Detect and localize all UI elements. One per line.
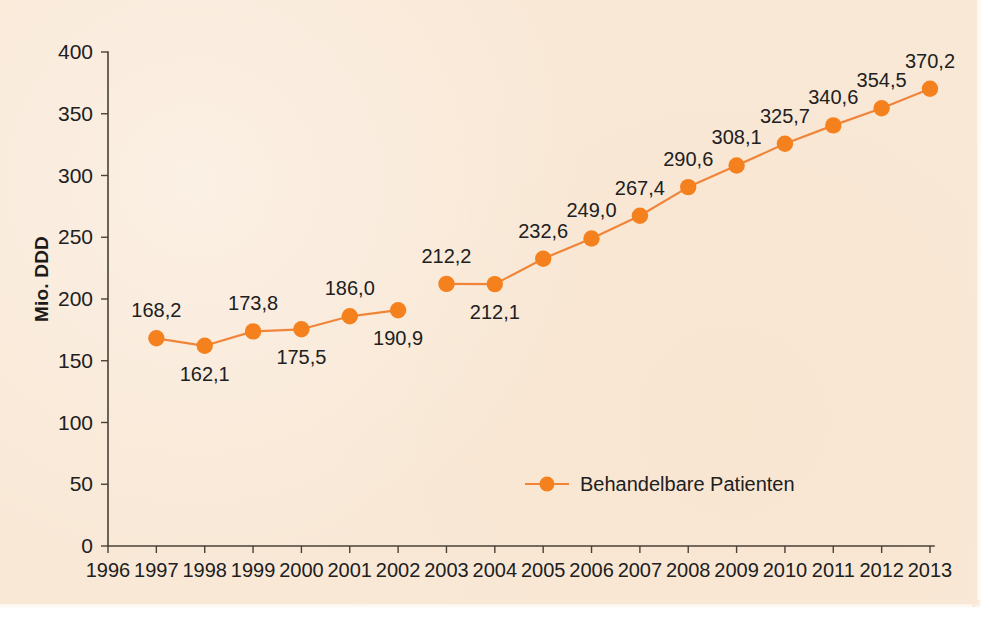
data-point-label: 290,6 — [643, 149, 733, 169]
data-point-label: 325,7 — [740, 106, 830, 126]
data-point-label: 267,4 — [595, 178, 685, 198]
data-point-marker — [535, 251, 551, 267]
y-tick-label: 150 — [11, 350, 93, 371]
data-point-label: 212,1 — [450, 302, 540, 322]
chart-legend: Behandelbare Patienten — [524, 474, 795, 494]
data-point-marker — [438, 276, 454, 292]
data-point-marker — [342, 308, 358, 324]
y-tick-label: 0 — [11, 535, 93, 556]
y-tick-label: 300 — [11, 165, 93, 186]
data-point-label: 370,2 — [885, 51, 975, 71]
data-point-label: 232,6 — [498, 221, 588, 241]
data-point-label: 308,1 — [692, 127, 782, 147]
data-point-marker — [390, 302, 406, 318]
data-point-label: 212,2 — [401, 246, 491, 266]
y-tick-label: 400 — [11, 41, 93, 62]
y-tick-label: 100 — [11, 412, 93, 433]
data-point-marker — [197, 338, 213, 354]
data-point-marker — [245, 323, 261, 339]
data-point-marker — [148, 330, 164, 346]
legend-label-behandelbare-patienten: Behandelbare Patienten — [580, 474, 795, 494]
data-point-label: 354,5 — [837, 70, 927, 90]
data-point-label: 162,1 — [160, 364, 250, 384]
data-point-label: 175,5 — [256, 347, 346, 367]
y-axis-title: Mio. DDD — [31, 209, 53, 349]
data-point-label: 168,2 — [111, 300, 201, 320]
legend-marker-icon — [524, 475, 570, 493]
data-point-label: 249,0 — [547, 200, 637, 220]
data-point-label: 186,0 — [305, 278, 395, 298]
data-point-label: 190,9 — [353, 328, 443, 348]
y-tick-label: 350 — [11, 103, 93, 124]
data-point-marker — [293, 321, 309, 337]
y-tick-label: 50 — [11, 473, 93, 494]
data-point-marker — [487, 276, 503, 292]
x-tick-label: 2013 — [900, 560, 960, 580]
chart-figure: 050100150200250300350400 199619971998199… — [0, 0, 989, 631]
data-point-label: 173,8 — [208, 293, 298, 313]
